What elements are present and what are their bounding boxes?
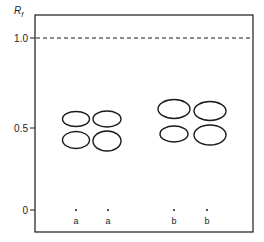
tick-label-1-0: 1.0 [14,33,28,44]
lane-b-2: b [194,102,226,227]
tick-label-0-5: 0.5 [14,123,28,134]
y-axis-title: Rf [14,5,24,18]
plate-frame [35,15,253,232]
spot-lower [160,126,188,142]
origin-dot [75,209,77,211]
lane-label: a [105,216,110,226]
tlc-chart: Rf 1.0 0.5 0 a a b b [0,0,264,242]
lane-label: b [171,216,176,226]
spot-upper [63,112,90,127]
spot-lower [63,132,90,149]
origin-dot [173,209,175,211]
spot-lower [93,131,121,151]
lane-b-1: b [158,100,190,227]
spot-upper [158,100,190,119]
origin-dot [206,209,208,211]
tick-label-0: 0 [22,205,28,216]
lane-a-2: a [93,111,121,226]
spot-lower [194,125,226,145]
origin-dot [107,209,109,211]
lane-label: b [204,216,209,226]
lane-a-1: a [63,112,90,227]
spot-upper [194,102,226,121]
spot-upper [93,111,121,127]
lane-label: a [73,216,78,226]
